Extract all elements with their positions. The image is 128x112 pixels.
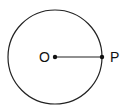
diagram-canvas: O P bbox=[0, 0, 128, 112]
label-o: O bbox=[39, 49, 50, 65]
center-point-o bbox=[53, 55, 57, 59]
point-p bbox=[100, 55, 104, 59]
label-p: P bbox=[110, 49, 119, 65]
